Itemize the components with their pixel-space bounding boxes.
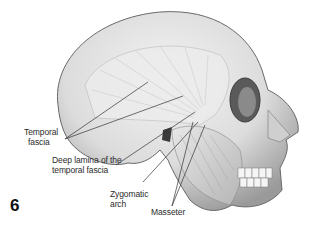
anatomy-figure: Temporal fascia Deep lamina of the tempo… xyxy=(0,0,316,237)
label-temporal-fascia: Temporal fascia xyxy=(24,127,58,147)
figure-number: 6 xyxy=(10,196,19,216)
label-deep-lamina: Deep lamina of the temporal fascia xyxy=(52,155,122,175)
label-zygomatic-arch: Zygomatic arch xyxy=(110,189,148,209)
skull-illustration xyxy=(0,0,316,237)
label-masseter: Masseter xyxy=(151,207,185,217)
